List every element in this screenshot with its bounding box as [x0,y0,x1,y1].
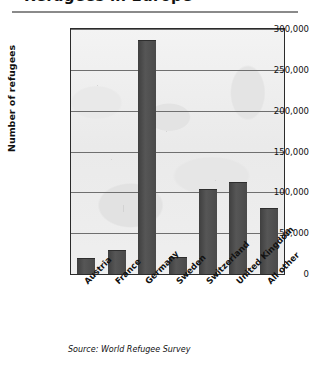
source-note: Source: World Refugee Survey [68,345,191,354]
title-divider [12,11,298,13]
x-axis-tick-labels: AustriaFranceGermanySwedenSwitzerlandUni… [0,279,309,339]
y-tick-label: 250,000 [245,65,309,75]
bar [138,40,156,274]
y-tick-label: 300,000 [245,24,309,34]
y-tick-label: 150,000 [245,147,309,157]
y-axis-title: Number of refugees [6,45,17,152]
y-tick-label: 200,000 [245,106,309,116]
y-tick-label: 100,000 [245,187,309,197]
page-title: Refugees in Europe [24,0,192,5]
